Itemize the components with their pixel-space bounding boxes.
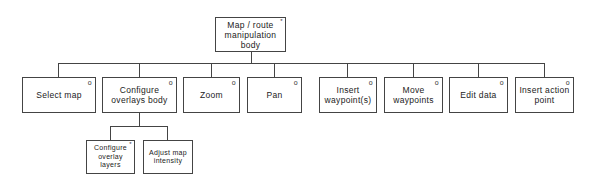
node-label: Pan (263, 90, 285, 100)
node-insert-action-point: o Insert action point (515, 77, 574, 113)
star-marker-icon: * (280, 18, 283, 25)
diagram-canvas: * Map / route manipulation body o Select… (0, 0, 590, 186)
node-label: Zoom (197, 90, 226, 100)
node-configure-overlay-layers: * Configure overlay layers (86, 140, 135, 174)
node-label: Configure overlay layers (87, 144, 134, 170)
circle-marker-icon: o (294, 79, 298, 86)
node-label: Configure overlays body (103, 85, 176, 105)
node-label: Select map (33, 90, 85, 100)
node-label: Insert waypoint(s) (320, 85, 376, 105)
node-move-waypoints: o Move waypoints (384, 77, 443, 113)
circle-marker-icon: o (232, 79, 236, 86)
node-edit-data: o Edit data (449, 77, 508, 113)
circle-marker-icon: o (435, 79, 439, 86)
circle-marker-icon: o (500, 79, 504, 86)
circle-marker-icon: o (169, 79, 173, 86)
node-configure-overlays-body: o Configure overlays body (102, 77, 177, 113)
node-label: Map / route manipulation body (216, 20, 285, 50)
node-label: Edit data (457, 90, 499, 100)
node-label: Move waypoints (385, 85, 442, 105)
node-select-map: o Select map (22, 77, 96, 113)
circle-marker-icon: o (88, 79, 92, 86)
circle-marker-icon: o (369, 79, 373, 86)
node-root: * Map / route manipulation body (215, 17, 286, 52)
node-adjust-map-intensity: Adjust map intensity (143, 140, 193, 174)
star-marker-icon: * (129, 141, 132, 148)
node-pan: o Pan (247, 77, 302, 113)
node-insert-waypoints: o Insert waypoint(s) (319, 77, 377, 113)
node-label: Adjust map intensity (144, 149, 192, 166)
node-label: Insert action point (516, 85, 573, 105)
circle-marker-icon: o (566, 79, 570, 86)
node-zoom: o Zoom (183, 77, 240, 113)
